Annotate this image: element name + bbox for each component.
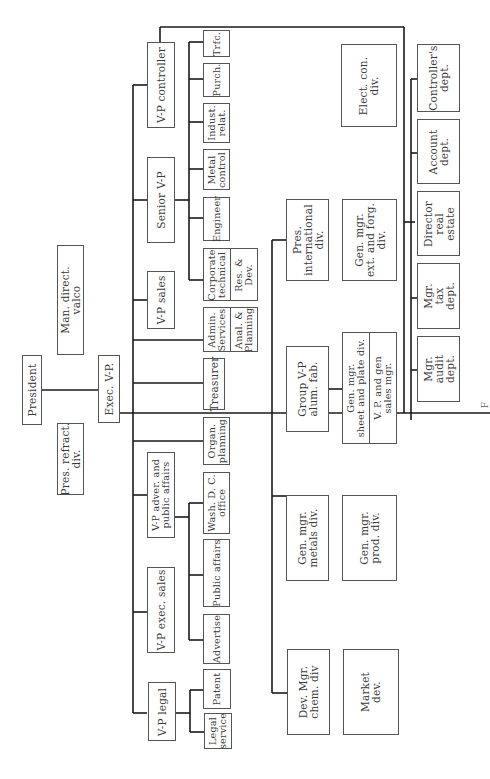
node-indust-relat: Indust. relat. xyxy=(203,103,230,143)
node-label: Market dev. xyxy=(360,672,382,712)
node-exec-vp: Exec. V-P. xyxy=(98,355,120,423)
org-chart: President Pres. refract. div. Man. direc… xyxy=(0,0,490,779)
node-president: President xyxy=(22,355,42,425)
node-label: Man. direct. valco xyxy=(60,266,82,334)
node-trfc: Trfc. xyxy=(203,30,230,57)
node-label: Mgr. audit dept. xyxy=(422,355,455,383)
node-label-vp-gen-sales: V. P. and gen sales mgr. xyxy=(373,356,393,420)
node-label: Controller's dept. xyxy=(428,45,450,110)
node-label: V-P legal xyxy=(157,687,168,735)
node-engineer: Engineer xyxy=(203,197,230,241)
node-gen-mgr-ext: Gen. mgr. ext. and forg. div. xyxy=(342,199,397,281)
node-label: Pres. international div. xyxy=(291,204,324,275)
node-label: Exec. V-P. xyxy=(104,363,115,416)
node-group-vp-alum: Group V-P alum. fab. xyxy=(286,346,329,432)
node-label: Gen. mgr. ext. and forg. div. xyxy=(353,203,386,277)
node-mgr-audit-dept: Mgr. audit dept. xyxy=(417,336,460,402)
node-label: Patent xyxy=(212,673,222,706)
node-label: Indust. relat. xyxy=(207,105,227,141)
node-account-dept: Account dept. xyxy=(417,119,460,184)
node-label: Director real estate xyxy=(422,200,455,246)
node-wash-dc-office: Wash. D. C. office xyxy=(203,472,230,534)
node-label: Advertise xyxy=(212,615,222,663)
node-label: Organ. planning xyxy=(207,419,227,463)
node-metal-control: Metal control xyxy=(203,149,230,190)
node-label: Elect. con. div. xyxy=(358,56,380,115)
node-mgr-tax-dept: Mgr. tax dept. xyxy=(417,263,460,329)
node-label-res-dev: Res. & Dev. xyxy=(234,258,254,292)
node-label: Mgr. tax dept. xyxy=(422,282,455,310)
node-label: V-P controller xyxy=(156,47,167,123)
node-label: Corporate technical xyxy=(207,249,227,300)
node-senior-vp: Senior V-P xyxy=(147,157,175,243)
node-label: V-P adver. and public affairs xyxy=(151,459,171,531)
node-market-dev: Market dev. xyxy=(343,649,399,735)
node-label: Dev. Mgr. chem. div xyxy=(298,665,320,718)
node-label: Group V-P alum. fab. xyxy=(297,361,319,417)
node-label: Admin. Services xyxy=(207,308,227,351)
node-controllers-dept: Controller's dept. xyxy=(417,44,460,112)
node-label: Trfc. xyxy=(212,32,222,56)
node-patent: Patent xyxy=(203,669,231,709)
node-vp-exec-sales: V-P exec. sales xyxy=(147,567,175,653)
node-label: Gen. mgr. metals div. xyxy=(297,508,319,567)
node-purch: Purch. xyxy=(203,63,230,97)
node-vp-legal: V-P legal xyxy=(148,682,176,741)
node-label: Legal service xyxy=(208,713,228,749)
node-admin-services: Admin. Services Anal. & Planning xyxy=(203,307,258,352)
node-label: Treasurer xyxy=(209,357,220,412)
node-public-affairs: Public affairs xyxy=(203,539,230,607)
node-label: Senior V-P xyxy=(156,171,167,228)
node-treasurer: Treasurer xyxy=(203,358,225,410)
node-pres-refract: Pres. refract. div. xyxy=(57,423,84,495)
node-label: Purch. xyxy=(212,63,222,96)
node-label: Metal control xyxy=(207,151,227,187)
node-director-real-estate: Director real estate xyxy=(417,191,460,256)
node-label: Account dept. xyxy=(428,129,450,174)
node-label: V-P exec. sales xyxy=(156,569,167,650)
node-label: Wash. D. C. office xyxy=(207,474,227,532)
node-advertise: Advertise xyxy=(203,614,230,664)
node-label: Gen. mgr. sheet and plate div. xyxy=(346,339,366,438)
node-label-anal-planning: Anal. & Planning xyxy=(234,307,254,352)
node-gen-mgr-sheet: Gen. mgr. sheet and plate div. V. P. and… xyxy=(342,332,397,444)
node-corporate-technical: Corporate technical Res. & Dev. xyxy=(203,248,258,301)
node-label: Pres. refract. div. xyxy=(60,423,82,496)
node-label: President xyxy=(27,364,38,417)
node-elect-con: Elect. con. div. xyxy=(341,44,397,127)
node-organ-planning: Organ. planning xyxy=(203,417,230,465)
node-label: Public affairs xyxy=(212,539,222,606)
node-label: V-P sales xyxy=(156,276,167,325)
node-label: Engineer xyxy=(212,196,222,242)
node-vp-adver-public-affairs: V-P adver. and public affairs xyxy=(147,452,175,538)
node-man-direct-valco: Man. direct. valco xyxy=(57,245,84,355)
node-vp-sales: V-P sales xyxy=(147,271,175,329)
node-pres-international: Pres. international div. xyxy=(286,199,329,281)
node-gen-mgr-metals: Gen. mgr. metals div. xyxy=(286,495,329,581)
node-dev-mgr-chem: Dev. Mgr. chem. div xyxy=(287,649,330,735)
node-label: Gen. mgr. prod. div. xyxy=(359,511,381,565)
caption-label: F xyxy=(480,402,490,408)
figure-caption-fragment: F xyxy=(480,396,490,414)
node-legal-service: Legal service xyxy=(204,713,232,749)
node-gen-mgr-prod: Gen. mgr. prod. div. xyxy=(342,495,397,581)
node-vp-controller: V-P controller xyxy=(147,42,175,128)
